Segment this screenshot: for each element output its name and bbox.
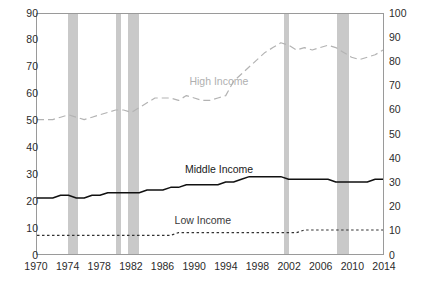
y-axis-left-tick: 90 <box>12 8 38 19</box>
series-line-low-income <box>37 230 383 235</box>
y-axis-right-tick: 60 <box>389 104 417 115</box>
x-axis-tick: 2014 <box>364 261 404 272</box>
y-axis-left-tick: 0 <box>12 250 38 261</box>
y-axis-left-tick: 70 <box>12 61 38 72</box>
y-axis-right-tick: 80 <box>389 56 417 67</box>
y-axis-right-tick: 90 <box>389 32 417 43</box>
series-label-middle-income: Middle Income <box>185 164 253 175</box>
y-axis-right-tick: 40 <box>389 153 417 164</box>
series-line-middle-income <box>37 177 383 198</box>
y-axis-left-tick: 20 <box>12 196 38 207</box>
plot-area: High Income Middle Income Low Income <box>36 13 384 255</box>
y-axis-left-tick: 40 <box>12 142 38 153</box>
y-axis-right-tick: 70 <box>389 80 417 91</box>
y-axis-right-tick: 100 <box>389 8 417 19</box>
y-axis-left-tick: 10 <box>12 223 38 234</box>
y-axis-right-tick: 30 <box>389 177 417 188</box>
series-label-low-income: Low Income <box>175 215 232 226</box>
y-axis-left-tick: 30 <box>12 169 38 180</box>
y-axis-right-tick: 50 <box>389 129 417 140</box>
y-axis-right-tick: 20 <box>389 201 417 212</box>
y-axis-left-tick: 50 <box>12 115 38 126</box>
y-axis-left-tick: 60 <box>12 88 38 99</box>
y-axis-right-tick: 0 <box>389 250 417 261</box>
y-axis-left-tick: 80 <box>12 34 38 45</box>
series-label-high-income: High Income <box>189 76 248 87</box>
income-chart: High Income Middle Income Low Income 010… <box>0 0 427 282</box>
y-axis-right-tick: 10 <box>389 225 417 236</box>
